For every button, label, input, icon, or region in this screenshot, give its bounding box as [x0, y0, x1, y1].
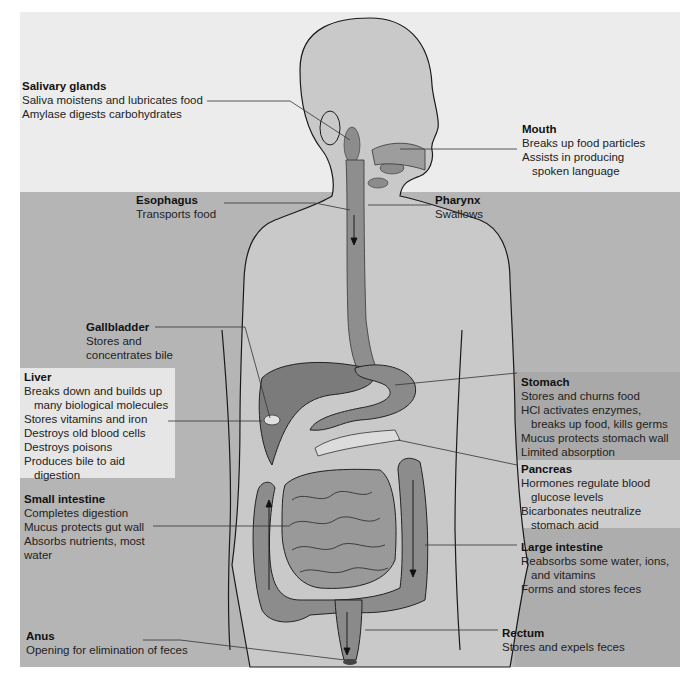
label-anus: Anus Opening for elimination of feces: [26, 629, 188, 657]
gallbladder-title: Gallbladder: [86, 320, 173, 334]
anus-title: Anus: [26, 629, 188, 643]
salivary-glands-title: Salivary glands: [22, 79, 203, 93]
gallbladder-line: concentrates bile: [86, 348, 173, 362]
liver-line: Destroys poisons: [24, 440, 168, 454]
mouth-line: spoken language: [522, 164, 645, 178]
small-intestine-title: Small intestine: [24, 492, 145, 506]
liver-line: Stores vitamins and iron: [24, 412, 168, 426]
large-intestine-line: Forms and stores feces: [521, 582, 669, 596]
mouth-line: Assists in producing: [522, 150, 645, 164]
liver-line: Produces bile to aid: [24, 454, 168, 468]
esophagus-title: Esophagus: [136, 193, 216, 207]
mouth-title: Mouth: [522, 122, 645, 136]
label-gallbladder: Gallbladder Stores and concentrates bile: [86, 320, 173, 362]
small-intestine-line: Mucus protects gut wall: [24, 520, 145, 534]
rectum-line: Stores and expels feces: [502, 640, 625, 654]
label-esophagus: Esophagus Transports food: [136, 193, 216, 221]
stomach-line: HCl activates enzymes,: [521, 403, 669, 417]
label-pharynx: Pharynx Swallows: [435, 193, 483, 221]
liver-title: Liver: [24, 370, 168, 384]
pancreas-line: Hormones regulate blood: [521, 476, 650, 490]
label-mouth: Mouth Breaks up food particles Assists i…: [522, 122, 645, 178]
pharynx-line: Swallows: [435, 207, 483, 221]
rectum-title: Rectum: [502, 626, 625, 640]
label-pancreas: Pancreas Hormones regulate blood glucose…: [521, 462, 650, 532]
label-small-intestine: Small intestine Completes digestion Mucu…: [24, 492, 145, 562]
stomach-line: breaks up food, kills germs: [521, 417, 669, 431]
ear: [320, 111, 340, 145]
salivary-glands-line: Amylase digests carbohydrates: [22, 107, 203, 121]
pancreas-line: glucose levels: [521, 490, 650, 504]
label-stomach: Stomach Stores and churns food HCl activ…: [521, 375, 669, 459]
liver-line: Breaks down and builds up: [24, 384, 168, 398]
pancreas-line: Bicarbonates neutralize: [521, 504, 650, 518]
label-rectum: Rectum Stores and expels feces: [502, 626, 625, 654]
liver-line: many biological molecules: [24, 398, 168, 412]
liver-line: digestion: [24, 468, 168, 482]
label-large-intestine: Large intestine Reabsorbs some water, io…: [521, 540, 669, 596]
anus-line: Opening for elimination of feces: [26, 643, 188, 657]
anus-shape: [343, 659, 357, 665]
stomach-line: Mucus protects stomach wall: [521, 431, 669, 445]
gallbladder-shape: [264, 415, 280, 425]
small-intestine-line: Completes digestion: [24, 506, 145, 520]
pancreas-title: Pancreas: [521, 462, 650, 476]
salivary-glands-line: Saliva moistens and lubricates food: [22, 93, 203, 107]
large-intestine-line: Reabsorbs some water, ions,: [521, 554, 669, 568]
liver-line: Destroys old blood cells: [24, 426, 168, 440]
label-salivary-glands: Salivary glands Saliva moistens and lubr…: [22, 79, 203, 121]
stomach-title: Stomach: [521, 375, 669, 389]
pharynx-title: Pharynx: [435, 193, 483, 207]
small-intestine-line: water: [24, 548, 145, 562]
left-arm-line: [222, 330, 231, 650]
pancreas-line: stomach acid: [521, 518, 650, 532]
large-intestine-line: and vitamins: [521, 568, 669, 582]
stomach-line: Stores and churns food: [521, 389, 669, 403]
esophagus-line: Transports food: [136, 207, 216, 221]
gallbladder-line: Stores and: [86, 334, 173, 348]
mouth-line: Breaks up food particles: [522, 136, 645, 150]
label-liver: Liver Breaks down and builds up many bio…: [24, 370, 168, 482]
large-intestine-title: Large intestine: [521, 540, 669, 554]
stomach-line: Limited absorption: [521, 445, 669, 459]
small-intestine-line: Absorbs nutrients, most: [24, 534, 145, 548]
